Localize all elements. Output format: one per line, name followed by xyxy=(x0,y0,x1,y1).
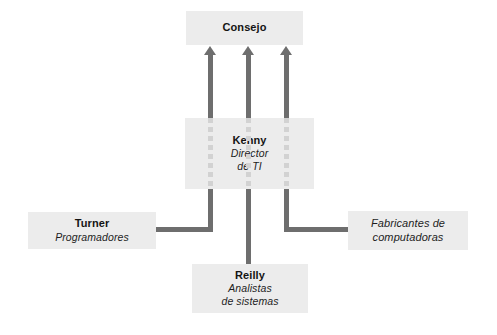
node-turner-subtitle: Programadores xyxy=(55,231,129,244)
node-vendors[interactable]: Fabricantes de computadoras xyxy=(348,211,468,250)
connector-kenny-reilly-vertical xyxy=(246,189,251,267)
node-vendors-subtitle-line2: computadoras xyxy=(373,231,444,244)
arrow-up-icon-1 xyxy=(204,46,216,55)
node-reilly[interactable]: Reilly Analistas de sistemas xyxy=(192,264,308,313)
org-chart-diagram: Consejo Kenny Director de TI Turner Prog… xyxy=(0,0,497,335)
connector-kenny-consejo-3-passthrough xyxy=(284,118,289,189)
connector-kenny-turner-vertical xyxy=(208,189,213,232)
connector-kenny-vendors-vertical xyxy=(284,189,289,232)
arrow-up-icon-2 xyxy=(242,46,254,55)
connector-kenny-turner-horizontal xyxy=(156,227,213,232)
connector-kenny-consejo-1-stem xyxy=(208,54,213,118)
arrow-up-icon-3 xyxy=(280,46,292,55)
connector-kenny-consejo-2-passthrough xyxy=(246,118,251,189)
node-vendors-subtitle: Fabricantes de xyxy=(371,217,445,230)
connector-kenny-vendors-horizontal xyxy=(284,227,352,232)
node-reilly-title: Reilly xyxy=(235,269,265,282)
connector-kenny-consejo-2-stem xyxy=(246,54,251,118)
node-reilly-subtitle: Analistas xyxy=(228,282,272,295)
connector-kenny-consejo-3-stem xyxy=(284,54,289,118)
node-reilly-subtitle-line2: de sistemas xyxy=(221,295,278,308)
node-consejo[interactable]: Consejo xyxy=(186,11,303,45)
connector-kenny-consejo-1-passthrough xyxy=(208,118,213,189)
node-consejo-title: Consejo xyxy=(222,21,266,34)
node-turner[interactable]: Turner Programadores xyxy=(28,212,156,249)
node-turner-title: Turner xyxy=(75,217,110,230)
